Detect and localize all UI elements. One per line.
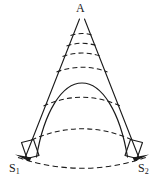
slit-right-outline bbox=[125, 140, 143, 159]
dashed-arc-6 bbox=[32, 129, 133, 140]
sector-left-edge bbox=[25, 19, 80, 158]
slit-left-outline bbox=[22, 140, 40, 159]
dashed-arc-group bbox=[32, 34, 133, 141]
apex-label: A bbox=[76, 2, 85, 14]
figure-canvas: A S1 S2 bbox=[0, 0, 165, 183]
arrowhead-group bbox=[15, 155, 149, 162]
outer-boundary-arc-group bbox=[18, 158, 146, 169]
slit-right-label: S2 bbox=[138, 162, 149, 174]
slit-left-label: S1 bbox=[9, 162, 20, 174]
dashed-arc-4 bbox=[57, 67, 108, 72]
arrowhead-left-icon bbox=[15, 155, 32, 162]
sector-diagram-svg bbox=[0, 0, 165, 183]
dashed-arc-3 bbox=[63, 53, 102, 57]
slit-right-label-sub: 2 bbox=[145, 167, 149, 176]
slit-left-shape bbox=[22, 140, 40, 159]
slit-left-label-sub: 1 bbox=[16, 167, 20, 176]
slit-right-label-base: S bbox=[138, 161, 145, 175]
dashed-arc-2 bbox=[67, 43, 98, 46]
slit-left-label-base: S bbox=[9, 161, 16, 175]
outer-boundary-arc bbox=[18, 158, 146, 169]
slit-right-shape bbox=[125, 140, 143, 159]
sector-right-edge bbox=[85, 19, 140, 158]
sector-edges bbox=[25, 19, 139, 158]
